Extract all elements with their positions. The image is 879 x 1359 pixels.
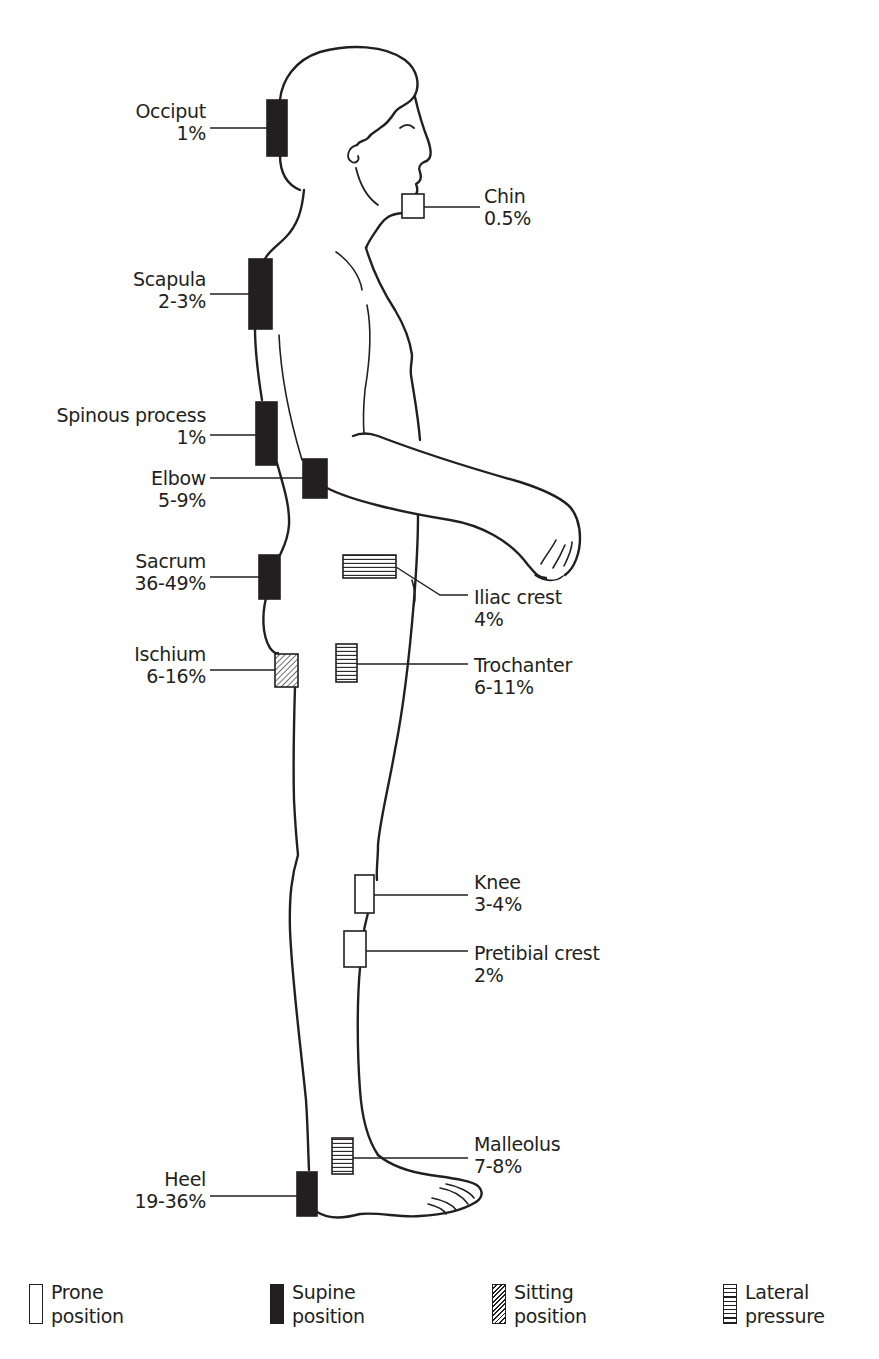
site-value: 2-3% bbox=[133, 290, 206, 312]
hairline bbox=[357, 95, 415, 145]
site-value: 2% bbox=[474, 964, 600, 986]
label-spinous-process: Spinous process 1% bbox=[56, 404, 206, 448]
site-name: Scapula bbox=[133, 268, 206, 290]
label-elbow: Elbow 5-9% bbox=[151, 467, 206, 511]
marker-spinous-process bbox=[256, 402, 277, 465]
site-name: Malleolus bbox=[474, 1133, 560, 1155]
site-value: 36-49% bbox=[135, 572, 206, 594]
label-chin: Chin 0.5% bbox=[484, 185, 531, 229]
label-pretibial-crest: Pretibial crest 2% bbox=[474, 942, 600, 986]
lateral-swatch-icon bbox=[723, 1284, 737, 1324]
marker-scapula bbox=[249, 259, 272, 329]
legend-item-prone: Prone position bbox=[29, 1280, 124, 1328]
site-value: 6-11% bbox=[474, 676, 572, 698]
site-name: Chin bbox=[484, 185, 531, 207]
label-heel: Heel 19-36% bbox=[135, 1168, 206, 1212]
lower-back bbox=[277, 463, 289, 555]
pressure-markers bbox=[249, 100, 424, 1216]
foot-top bbox=[378, 1155, 482, 1202]
site-name: Trochanter bbox=[474, 654, 572, 676]
legend-line1: Sitting bbox=[514, 1280, 587, 1304]
site-value: 0.5% bbox=[484, 207, 531, 229]
legend: Prone position Supine position Sitting p… bbox=[0, 1280, 879, 1340]
prone-swatch-icon bbox=[29, 1284, 43, 1324]
legend-line1: Lateral bbox=[745, 1280, 825, 1304]
shoulder-line bbox=[336, 252, 362, 290]
legend-item-supine: Supine position bbox=[270, 1280, 365, 1328]
legend-line1: Supine bbox=[292, 1280, 365, 1304]
front-torso bbox=[366, 248, 420, 440]
label-ischium: Ischium 6-16% bbox=[134, 643, 206, 687]
leader-iliac-crest bbox=[396, 567, 468, 595]
back-of-head bbox=[280, 155, 300, 190]
site-value: 6-16% bbox=[134, 665, 206, 687]
legend-line2: pressure bbox=[745, 1304, 825, 1328]
marker-chin bbox=[402, 194, 424, 218]
legend-item-lateral: Lateral pressure bbox=[723, 1280, 825, 1328]
site-value: 4% bbox=[474, 608, 562, 630]
label-malleolus: Malleolus 7-8% bbox=[474, 1133, 560, 1177]
toes bbox=[428, 1184, 474, 1214]
marker-occiput bbox=[267, 100, 287, 156]
legend-line1: Prone bbox=[51, 1280, 124, 1304]
legend-line2: position bbox=[514, 1304, 587, 1328]
body-diagram bbox=[0, 0, 879, 1359]
site-name: Elbow bbox=[151, 467, 206, 489]
ear bbox=[348, 145, 358, 163]
forearm-top bbox=[353, 433, 580, 575]
marker-elbow bbox=[303, 459, 327, 498]
site-value: 3-4% bbox=[474, 893, 522, 915]
legend-line2: position bbox=[51, 1304, 124, 1328]
neck-front bbox=[366, 213, 403, 248]
marker-ischium bbox=[275, 654, 298, 687]
marker-trochanter bbox=[336, 644, 357, 682]
marker-iliac-crest bbox=[343, 555, 396, 578]
site-name: Occiput bbox=[135, 100, 206, 122]
marker-pretibial-crest bbox=[344, 931, 366, 967]
site-name: Spinous process bbox=[56, 404, 206, 426]
site-name: Pretibial crest bbox=[474, 942, 600, 964]
foot-sole bbox=[317, 1202, 476, 1218]
label-trochanter: Trochanter 6-11% bbox=[474, 654, 572, 698]
site-name: Iliac crest bbox=[474, 586, 562, 608]
site-name: Sacrum bbox=[135, 550, 206, 572]
arm-front-line bbox=[363, 305, 370, 434]
site-name: Knee bbox=[474, 871, 522, 893]
legend-item-sitting: Sitting position bbox=[492, 1280, 587, 1328]
site-name: Heel bbox=[135, 1168, 206, 1190]
head-outline bbox=[280, 47, 418, 100]
label-sacrum: Sacrum 36-49% bbox=[135, 550, 206, 594]
body-outline bbox=[255, 47, 580, 1217]
site-value: 5-9% bbox=[151, 489, 206, 511]
neck-back bbox=[265, 190, 304, 259]
supine-swatch-icon bbox=[270, 1284, 284, 1324]
face-profile bbox=[414, 97, 431, 196]
back-leg bbox=[290, 686, 309, 1170]
eye bbox=[400, 125, 414, 128]
jaw-line bbox=[356, 168, 378, 205]
marker-sacrum bbox=[259, 555, 280, 599]
label-knee: Knee 3-4% bbox=[474, 871, 522, 915]
sitting-swatch-icon bbox=[492, 1284, 506, 1324]
back-outline bbox=[255, 328, 262, 400]
site-value: 1% bbox=[135, 122, 206, 144]
legend-line2: position bbox=[292, 1304, 365, 1328]
site-value: 7-8% bbox=[474, 1155, 560, 1177]
buttock bbox=[263, 598, 278, 653]
marker-malleolus bbox=[332, 1138, 353, 1174]
label-iliac-crest: Iliac crest 4% bbox=[474, 586, 562, 630]
marker-knee bbox=[355, 875, 374, 913]
site-value: 1% bbox=[56, 426, 206, 448]
site-value: 19-36% bbox=[135, 1190, 206, 1212]
label-scapula: Scapula 2-3% bbox=[133, 268, 206, 312]
label-occiput: Occiput 1% bbox=[135, 100, 206, 144]
back-arm-line bbox=[279, 335, 302, 460]
marker-heel bbox=[297, 1172, 317, 1216]
site-name: Ischium bbox=[134, 643, 206, 665]
